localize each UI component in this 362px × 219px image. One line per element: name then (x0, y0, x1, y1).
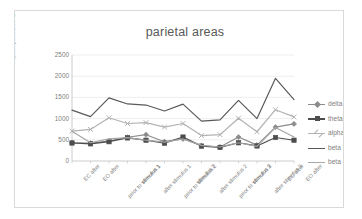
y-axis-tick-label: 500 (35, 136, 69, 143)
data-point-alpha (255, 129, 260, 134)
x-axis-tick-label: stimulus 1 (139, 163, 161, 185)
legend-item-alpha[interactable]: alpha (308, 126, 344, 141)
y-axis-tick-label: 0 (35, 157, 69, 164)
series-line-alpha (72, 110, 294, 136)
legend-swatch-icon (308, 129, 325, 138)
data-point-delta (236, 134, 241, 139)
data-point-alpha (273, 107, 278, 112)
x-axis-tick-label: stimulus 2 (195, 163, 217, 185)
y-axis-title: rhythm power, uV^2 (14, 10, 16, 63)
chart-title: parietal areas (75, 25, 295, 39)
legend-item-theta[interactable]: theta (308, 112, 344, 127)
legend-label: theta (328, 116, 343, 123)
y-axis-tick-label: 1500 (35, 93, 69, 100)
legend-swatch-icon (308, 100, 325, 109)
legend-label: beta 2 (328, 159, 344, 166)
x-axis-ticks: EC afterEO afterprior to stimulus 1stimu… (72, 163, 312, 208)
data-point-delta (143, 132, 148, 137)
legend-item-beta-1[interactable]: beta 1 (308, 141, 344, 156)
y-axis-tick-label: 2000 (35, 72, 69, 79)
legend-item-delta[interactable]: delta (308, 97, 344, 112)
y-axis-tick-label: 1000 (35, 115, 69, 122)
chart-container: parietal areas rhythm power, uV^2 050010… (14, 10, 344, 208)
legend-label: delta (328, 101, 342, 108)
x-axis-tick-label: stimulus 3 (250, 163, 272, 185)
data-point-theta (70, 141, 74, 145)
data-point-delta (291, 121, 296, 126)
legend-label: alpha (328, 130, 344, 137)
plot-svg (72, 55, 294, 161)
chart-legend: deltathetaalphabeta 1beta 2 (308, 97, 344, 170)
legend-item-beta-2[interactable]: beta 2 (308, 155, 344, 170)
data-point-alpha (236, 116, 241, 121)
x-axis-tick-label: EO after (101, 163, 120, 182)
data-point-theta (292, 138, 296, 142)
y-axis-tick-label: 2500 (35, 51, 69, 58)
legend-label: beta 1 (328, 145, 344, 152)
data-point-theta (107, 140, 111, 144)
x-axis-tick-label: EC after (82, 163, 101, 182)
plot-area (72, 55, 294, 161)
y-axis-ticks: 05001000150020002500 (31, 55, 69, 161)
series-line-beta-1 (72, 78, 294, 121)
data-point-theta (273, 135, 277, 139)
legend-swatch-icon (308, 114, 325, 123)
legend-swatch-icon (308, 158, 325, 167)
legend-swatch-icon (308, 144, 325, 153)
